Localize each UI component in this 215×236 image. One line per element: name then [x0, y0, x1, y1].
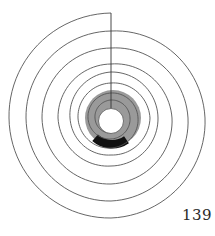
center-hole [99, 109, 124, 134]
page-number: 139 [182, 206, 212, 224]
spiral-diagram [0, 0, 215, 236]
